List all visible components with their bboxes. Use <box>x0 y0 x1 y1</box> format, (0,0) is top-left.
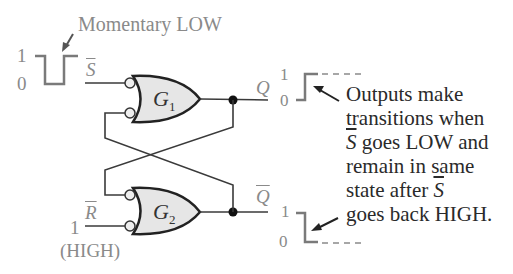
note-line-1: Outputs make <box>346 82 492 106</box>
note-line-5-text: state after <box>346 178 428 202</box>
q-high-level: 1 <box>280 66 289 83</box>
latch-diagram: G1 G2 <box>0 0 513 274</box>
q-transition-arrow <box>313 86 339 101</box>
r-high-note: (HIGH) <box>60 241 120 260</box>
qbar-output-label: Q <box>256 187 270 206</box>
note-line-2: transitions when <box>346 106 492 130</box>
g1-input-bubble-s <box>125 78 135 88</box>
momentary-low-arrow <box>62 34 73 52</box>
note-line-3-text: goes LOW and <box>362 130 489 154</box>
q-low-level: 0 <box>280 92 289 109</box>
s-input-label: S <box>86 60 96 79</box>
note-s-symbol-1: S <box>346 130 357 154</box>
g1-input-bubble-feedback <box>125 108 135 118</box>
note-line-3: S goes LOW and <box>346 130 492 154</box>
s-high-level: 1 <box>17 46 27 65</box>
r-input-label: R <box>85 203 97 222</box>
s-input-waveform <box>35 56 78 84</box>
note-line-6: goes back HIGH. <box>346 202 492 226</box>
explanation-note: Outputs make transitions when S goes LOW… <box>346 82 492 226</box>
g2-input-bubble-r <box>125 221 135 231</box>
note-line-5: state after S <box>346 178 492 202</box>
qbar-low-level: 0 <box>279 233 288 250</box>
gate-g1: G1 <box>125 76 200 122</box>
qbar-transition-arrow <box>311 218 338 231</box>
s-low-level: 0 <box>17 74 27 93</box>
g2-input-bubble-feedback <box>125 190 135 200</box>
note-line-4: remain in same <box>346 154 492 178</box>
q-output-label: Q <box>256 78 270 97</box>
gate-g2: G2 <box>125 188 200 234</box>
r-level: 1 <box>70 218 80 237</box>
qbar-high-level: 1 <box>281 203 290 220</box>
momentary-low-label: Momentary LOW <box>78 14 222 34</box>
note-s-symbol-2: S <box>433 178 444 202</box>
